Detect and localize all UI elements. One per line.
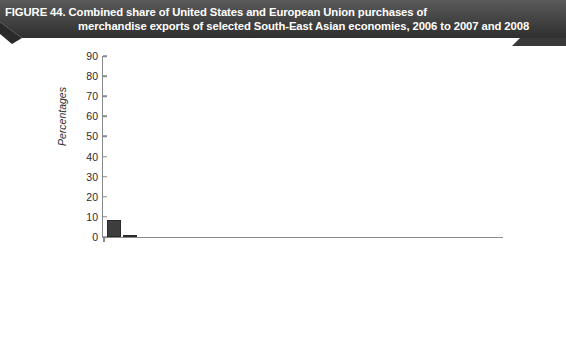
bar-average-2006-2007 [107, 220, 121, 237]
y-axis-tick-label-80: 80 [68, 70, 103, 82]
figure-title-banner: FIGURE 44. Combined share of United Stat… [0, 0, 566, 46]
y-axis-tick-label-60: 60 [68, 110, 103, 122]
y-axis-tick-label-90: 90 [68, 50, 103, 62]
y-axis-tick-label-20: 20 [68, 191, 103, 203]
y-axis-tick-label-0: 0 [68, 231, 103, 243]
y-axis-label: Percentages [56, 87, 68, 146]
y-axis-tick-label-30: 30 [68, 171, 103, 183]
x-axis-category-labels [102, 241, 502, 326]
bar-series-container [102, 56, 502, 237]
bar-group [107, 56, 137, 237]
figure-title-line-2: merchandise exports of selected South-Ea… [0, 19, 566, 33]
y-axis-tick-label-40: 40 [68, 151, 103, 163]
y-axis-tick-label-10: 10 [68, 211, 103, 223]
bar-chart: Percentages 0102030405060708090 [0, 46, 566, 342]
bar-2008 [123, 235, 137, 237]
y-axis-tick-label-50: 50 [68, 130, 103, 142]
y-axis-tick-label-70: 70 [68, 90, 103, 102]
figure-title-text: FIGURE 44. Combined share of United Stat… [0, 0, 566, 46]
figure-title-line-1: FIGURE 44. Combined share of United Stat… [0, 5, 566, 19]
